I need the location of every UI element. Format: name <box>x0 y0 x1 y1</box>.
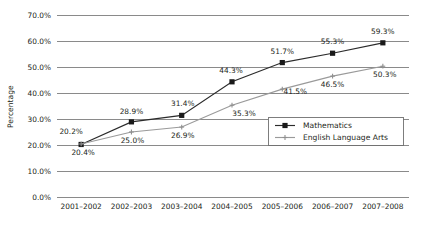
x-axis-category-label: 2004–2005 <box>211 202 253 211</box>
x-axis-category-label: 2001–2002 <box>60 202 101 211</box>
data-point-marker <box>330 51 335 56</box>
data-point-label: 25.0% <box>121 136 144 145</box>
y-axis-tick-label: 40.0% <box>28 89 51 98</box>
data-point-label: 51.7% <box>271 47 294 56</box>
chart-legend[interactable]: MathematicsEnglish Language Arts <box>268 117 403 145</box>
y-axis-tick-labels: 0.0%10.0%20.0%30.0%40.0%50.0%60.0%70.0% <box>28 11 51 202</box>
data-point-label: 31.4% <box>171 99 194 108</box>
x-axis-category-label: 2005–2006 <box>262 202 304 211</box>
y-axis-tick-label: 60.0% <box>28 37 51 46</box>
data-point-marker <box>129 119 134 124</box>
y-axis-tick-label: 0.0% <box>32 193 51 202</box>
data-point-marker <box>380 40 385 45</box>
data-point-label: 28.9% <box>120 107 143 116</box>
legend-label-mathematics[interactable]: Mathematics <box>303 121 352 130</box>
x-axis-category-label: 2002–2003 <box>111 202 153 211</box>
data-point-marker <box>129 130 134 135</box>
data-point-label: 46.5% <box>321 80 344 89</box>
data-point-label: 20.2% <box>59 127 82 136</box>
legend-label-english-language-arts[interactable]: English Language Arts <box>303 133 388 142</box>
legend-marker <box>282 123 287 128</box>
data-point-label: 55.3% <box>321 37 344 46</box>
data-point-marker <box>179 125 184 130</box>
line-chart: 0.0%10.0%20.0%30.0%40.0%50.0%60.0%70.0% … <box>0 0 423 225</box>
chart-container: 0.0%10.0%20.0%30.0%40.0%50.0%60.0%70.0% … <box>0 0 423 225</box>
data-point-marker <box>380 64 385 69</box>
data-point-marker <box>229 79 234 84</box>
data-point-label: 50.3% <box>373 70 396 79</box>
data-point-marker <box>280 60 285 65</box>
data-point-label: 20.4% <box>71 148 94 157</box>
data-point-label: 41.5% <box>284 87 307 96</box>
data-point-marker <box>330 74 335 79</box>
y-axis-tick-label: 20.0% <box>28 141 51 150</box>
y-axis-tick-label: 50.0% <box>28 63 51 72</box>
data-point-marker <box>179 113 184 118</box>
data-point-label: 35.3% <box>232 109 255 118</box>
x-axis-category-label: 2003–2004 <box>161 202 203 211</box>
x-axis-category-label: 2006–2007 <box>312 202 354 211</box>
y-axis-title: Percentage <box>6 85 15 128</box>
data-point-marker <box>230 103 235 108</box>
x-axis-category-label: 2007–2008 <box>362 202 404 211</box>
data-point-label: 44.3% <box>219 66 242 75</box>
gridlines <box>57 15 409 197</box>
data-point-label: 59.3% <box>371 27 394 36</box>
y-axis-tick-label: 70.0% <box>28 11 51 20</box>
x-axis-category-labels: 2001–20022002–20032003–20042004–20052005… <box>60 202 403 211</box>
y-axis-tick-label: 30.0% <box>28 115 51 124</box>
y-axis-tick-label: 10.0% <box>28 167 51 176</box>
data-point-label: 26.9% <box>171 131 194 140</box>
